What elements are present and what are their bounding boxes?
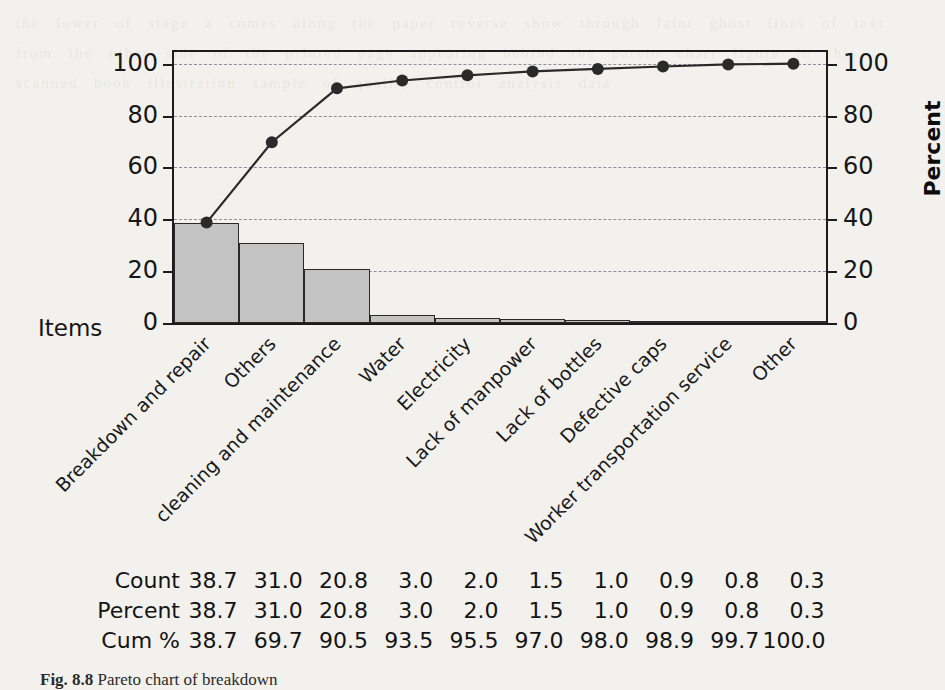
table-cell: 0.9 (632, 568, 694, 593)
line-marker (527, 65, 539, 77)
plot-area (172, 50, 828, 325)
figure-caption-number: Fig. 8.8 (40, 670, 93, 689)
line-marker (722, 58, 734, 70)
y-tick-left (163, 219, 172, 221)
y-tick-left (163, 167, 172, 169)
line-marker (787, 58, 799, 70)
x-axis-category-label: Breakdown and repair (0, 332, 214, 560)
table-cell: 95.5 (436, 628, 498, 653)
figure-caption: Fig. 8.8 Pareto chart of breakdown (40, 670, 277, 690)
table-row-label: Count (0, 568, 180, 593)
table-cell: 38.7 (176, 568, 238, 593)
x-axis-title: Items (38, 315, 102, 341)
table-cell: 38.7 (176, 598, 238, 623)
table-cell: 0.8 (697, 568, 759, 593)
y-axis-left-tick-label: 20 (86, 256, 158, 284)
table-row: Cum %38.769.790.593.595.597.098.098.999.… (0, 628, 940, 658)
table-cell: 31.0 (241, 568, 303, 593)
y-tick-right (828, 323, 837, 325)
figure-caption-text: Pareto chart of breakdown (98, 670, 278, 689)
y-axis-left-tick-label: 60 (86, 152, 158, 180)
table-cell: 2.0 (436, 598, 498, 623)
y-axis-right-tick-label: 100 (843, 49, 889, 77)
table-cell: 0.9 (632, 598, 694, 623)
y-tick-left (163, 271, 172, 273)
table-cell: 69.7 (241, 628, 303, 653)
table-cell: 0.8 (697, 598, 759, 623)
line-marker (396, 75, 408, 87)
table-row-label: Cum % (0, 628, 180, 653)
y-axis-right-tick-label: 0 (843, 308, 858, 336)
table-cell: 98.9 (632, 628, 694, 653)
y-axis-right-tick-label: 40 (843, 204, 874, 232)
table-cell: 31.0 (241, 598, 303, 623)
y-axis-left-tick-label: 100 (86, 49, 158, 77)
y-axis-left-tick-label: 40 (86, 204, 158, 232)
line-marker (461, 69, 473, 81)
y-tick-right (828, 271, 837, 273)
table-cell: 97.0 (502, 628, 564, 653)
y-tick-right (828, 167, 837, 169)
y-tick-right (828, 219, 837, 221)
line-marker (201, 217, 213, 229)
line-marker (331, 82, 343, 94)
table-cell: 1.5 (502, 598, 564, 623)
table-cell: 20.8 (306, 568, 368, 593)
y-axis-left-tick-label: 80 (86, 101, 158, 129)
table-cell: 98.0 (567, 628, 629, 653)
table-cell: 1.0 (567, 598, 629, 623)
table-row: Percent38.731.020.83.02.01.51.00.90.80.3 (0, 598, 940, 628)
table-cell: 38.7 (176, 628, 238, 653)
table-cell: 1.0 (567, 568, 629, 593)
y-axis-right-tick-label: 20 (843, 256, 874, 284)
y-axis-right-tick-label: 80 (843, 101, 874, 129)
cumulative-line-series (174, 52, 826, 323)
table-cell: 90.5 (306, 628, 368, 653)
table-row-label: Percent (0, 598, 180, 623)
y-tick-right (828, 116, 837, 118)
y-axis-right-title: Percent (920, 100, 945, 196)
y-axis-right-tick-label: 60 (843, 152, 874, 180)
y-tick-left (163, 116, 172, 118)
table-cell: 3.0 (371, 568, 433, 593)
table-cell: 3.0 (371, 598, 433, 623)
table-row: Count38.731.020.83.02.01.51.00.90.80.3 (0, 568, 940, 598)
line-marker (266, 136, 278, 148)
table-cell: 0.3 (762, 598, 824, 623)
table-cell: 0.3 (762, 568, 824, 593)
table-cell: 100.0 (762, 628, 824, 653)
table-cell: 93.5 (371, 628, 433, 653)
y-tick-left (163, 64, 172, 66)
line-marker (657, 61, 669, 73)
table-cell: 99.7 (697, 628, 759, 653)
y-tick-left (163, 323, 172, 325)
line-marker (592, 63, 604, 75)
table-cell: 20.8 (306, 598, 368, 623)
table-cell: 2.0 (436, 568, 498, 593)
y-tick-right (828, 64, 837, 66)
table-cell: 1.5 (502, 568, 564, 593)
